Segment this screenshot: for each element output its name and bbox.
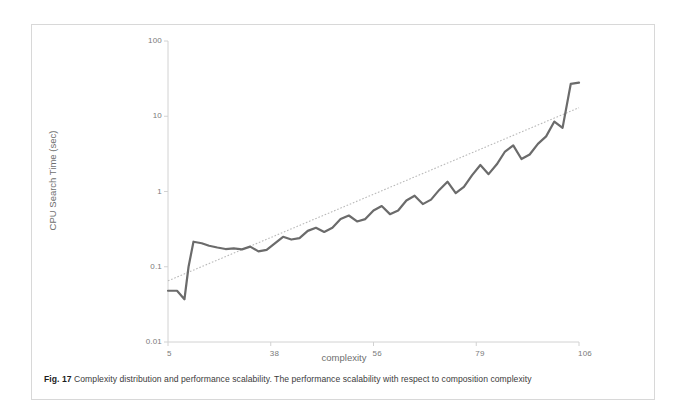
x-axis-tick-marks [168,342,579,346]
y-axis-tick-label: 0.1 [104,262,162,271]
figure-card: 1001010.10.01 5385679106 CPU Search Time… [31,24,655,400]
figure-caption-label: Fig. 17 [44,374,72,384]
y-axis-title: CPU Search Time (sec) [47,101,58,261]
figure-caption-text: Complexity distribution and performance … [74,374,531,384]
trend-line-series [168,108,579,281]
cpu-search-time-series [168,83,579,300]
y-axis-tick-label: 0.01 [104,337,162,346]
y-axis-tick-label: 10 [104,111,162,120]
chart-axes [164,41,579,346]
y-axis-tick-marks [164,41,168,342]
y-axis-tick-label: 100 [104,36,162,45]
x-axis-title: complexity [32,352,656,363]
figure-caption: Fig. 17 Complexity distribution and perf… [44,374,644,385]
y-axis-tick-label: 1 [104,187,162,196]
chart-plot-area: 1001010.10.01 5385679106 CPU Search Time… [32,25,656,365]
